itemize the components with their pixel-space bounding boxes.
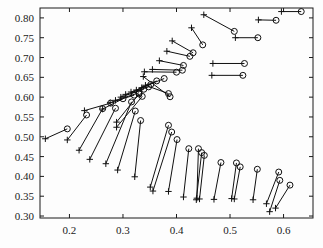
y-tick-label: 0.45 (15, 151, 35, 163)
x-tick-label: 0.6 (277, 224, 291, 236)
segment-line (276, 185, 290, 208)
segment-line (153, 132, 172, 191)
segment-line (270, 180, 280, 211)
segment-line (159, 61, 183, 66)
segment-line (90, 108, 116, 159)
y-tick-label: 0.75 (15, 32, 35, 44)
segment-line (253, 169, 257, 200)
scatter-plot: 0.20.30.40.50.60.300.350.400.450.500.550… (0, 0, 323, 248)
y-tick-label: 0.65 (15, 71, 35, 83)
segment-line (143, 77, 170, 97)
x-tick-label: 0.5 (223, 224, 237, 236)
segment-line (172, 41, 193, 53)
y-tick-label: 0.80 (15, 12, 35, 24)
data-series (42, 8, 304, 214)
y-tick-label: 0.70 (15, 52, 35, 64)
chart-container: 0.20.30.40.50.60.300.350.400.450.500.550… (0, 0, 323, 248)
plot-frame (40, 8, 313, 218)
y-tick-label: 0.30 (15, 210, 35, 222)
y-tick-label: 0.55 (15, 111, 35, 123)
segment-line (150, 125, 168, 187)
x-tick-label: 0.2 (63, 224, 77, 236)
y-tick-label: 0.35 (15, 190, 35, 202)
y-tick-label: 0.50 (15, 131, 35, 143)
x-tick-label: 0.4 (170, 224, 184, 236)
segment-line (106, 102, 132, 164)
y-tick-label: 0.40 (15, 170, 35, 182)
segment-line (204, 15, 235, 32)
y-tick-label: 0.60 (15, 91, 35, 103)
segment-line (183, 149, 188, 197)
x-tick-label: 0.3 (116, 224, 130, 236)
segment-line (168, 140, 177, 192)
segment-line (167, 51, 190, 56)
segment-line (214, 163, 221, 200)
segment-line (45, 129, 67, 139)
segment-line (118, 111, 136, 170)
segment-line (79, 109, 103, 151)
segment-line (135, 121, 141, 177)
